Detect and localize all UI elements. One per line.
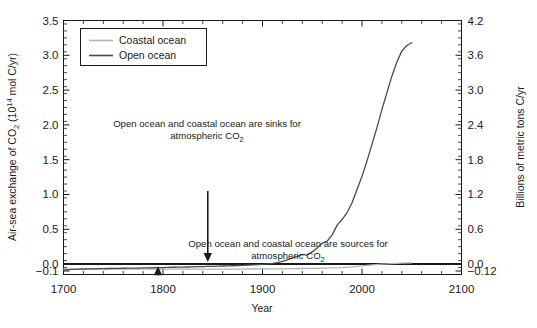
y-tick-label-right: 4.2 <box>468 15 484 27</box>
chart-legend: Coastal ocean Open ocean <box>81 29 207 66</box>
sink-annotation-line2-prefix: atmospheric CO <box>170 130 239 141</box>
y-tick-label-right: 0.6 <box>468 223 484 235</box>
y-tick-label-right: 1.2 <box>468 188 484 200</box>
x-tick-label: 1900 <box>250 283 276 295</box>
y-tick-label-right: 1.8 <box>468 154 484 166</box>
source-annotation-line1: Open ocean and coastal ocean are sources… <box>188 238 388 249</box>
y-tick-label-right: −0.12 <box>468 265 497 277</box>
sink-annotation-line2-subscript: 2 <box>240 135 244 144</box>
x-axis-title: Year <box>251 302 273 314</box>
y-tick-label-left: 3.5 <box>43 15 59 27</box>
chart-figure: 3.53.02.52.01.51.00.50.0−0.1 4.23.63.02.… <box>0 0 537 328</box>
x-tick-label: 2100 <box>449 283 475 295</box>
x-tick-label: 2000 <box>349 283 375 295</box>
legend-label-coastal-ocean: Coastal ocean <box>119 34 186 46</box>
sink-annotation-line1: Open ocean and coastal ocean are sinks f… <box>113 118 302 129</box>
x-tick-label: 1700 <box>51 283 77 295</box>
y-tick-label-left: 1.5 <box>43 154 59 166</box>
x-tick-label: 1800 <box>150 283 176 295</box>
y-axis-left-title-superscript: 14 <box>5 98 14 106</box>
y-tick-label-left: −0.1 <box>36 265 59 277</box>
y-axis-right-title: Billions of metric tons C/yr <box>514 86 526 208</box>
y-tick-label-left: 2.0 <box>43 119 59 131</box>
y-tick-label-right: 3.0 <box>468 84 484 96</box>
y-axis-left-title-part-b: (10 <box>6 107 18 125</box>
y-tick-label-left: 0.5 <box>43 223 59 235</box>
y-axis-left-title-part-c: mol C/yr) <box>6 53 18 99</box>
y-tick-label-left: 3.0 <box>43 49 59 61</box>
source-annotation-line2-subscript: 2 <box>321 255 325 264</box>
y-tick-label-right: 3.6 <box>468 49 484 61</box>
legend-label-open-ocean: Open ocean <box>119 49 176 61</box>
y-tick-label-left: 2.5 <box>43 84 59 96</box>
air-sea-co2-exchange-chart: 3.53.02.52.01.51.00.50.0−0.1 4.23.63.02.… <box>0 0 537 328</box>
y-tick-label-left: 1.0 <box>43 188 59 200</box>
source-annotation-line2-prefix: atmospheric CO <box>251 250 320 261</box>
y-axis-left-title-part-a: Air-sea exchange of CO <box>6 129 18 241</box>
y-tick-label-right: 2.4 <box>468 119 485 131</box>
